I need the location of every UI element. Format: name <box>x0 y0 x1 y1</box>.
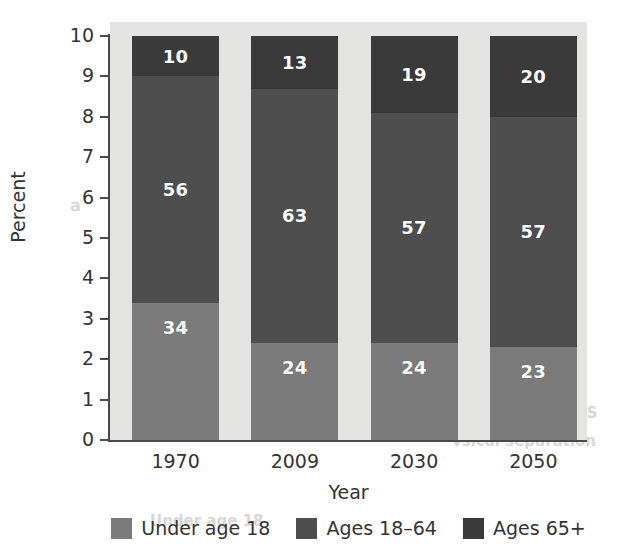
y-tick-label: 5 <box>46 228 94 247</box>
bar-value-label: 24 <box>401 357 427 378</box>
bar-segment: 13 <box>251 36 338 89</box>
y-tick-mark <box>100 116 109 118</box>
y-tick-mark <box>100 318 109 320</box>
x-axis-line <box>108 440 587 442</box>
y-tick-label: 6 <box>46 188 94 207</box>
bar-value-label: 56 <box>163 179 189 200</box>
y-tick-mark <box>100 75 109 77</box>
y-axis-title: Percent <box>7 157 29 257</box>
y-tick-label: 3 <box>46 309 94 328</box>
y-tick-mark <box>100 358 109 360</box>
bar-segment: 19 <box>371 36 458 113</box>
y-axis-ticks: 012345678910 <box>0 0 110 560</box>
y-tick-label: 0 <box>46 430 94 449</box>
bar-value-label: 10 <box>163 46 189 67</box>
bar-value-label: 19 <box>401 64 427 85</box>
bar-group: 345610 <box>132 22 219 440</box>
bar-segment: 10 <box>132 36 219 76</box>
bar-value-label: 34 <box>163 317 189 338</box>
chart-legend: Under age 18Ages 18–64Ages 65+ <box>110 517 587 539</box>
y-tick-mark <box>100 197 109 199</box>
figure-container: inModeransionveandALLIEDCONSIDERATIONSvs… <box>0 0 633 560</box>
bar-segment: 34 <box>132 303 219 440</box>
bar-segment: 23 <box>490 347 577 440</box>
y-tick-mark <box>100 439 109 441</box>
y-tick-label: 2 <box>46 349 94 368</box>
legend-swatch-icon <box>111 518 132 539</box>
bar-segment: 57 <box>371 113 458 343</box>
bar-value-label: 57 <box>521 221 547 242</box>
legend-swatch-icon <box>463 518 484 539</box>
legend-label: Ages 18–64 <box>326 517 437 539</box>
bar-value-label: 20 <box>521 66 547 87</box>
legend-item[interactable]: Under age 18 <box>111 517 270 539</box>
bar-segment: 20 <box>490 36 577 117</box>
bar-value-label: 13 <box>282 52 308 73</box>
y-tick-label: 4 <box>46 268 94 287</box>
x-tick-label: 1970 <box>132 450 219 472</box>
legend-label: Under age 18 <box>141 517 270 539</box>
legend-label: Ages 65+ <box>493 517 586 539</box>
y-tick-mark <box>100 277 109 279</box>
y-tick-label: 10 <box>46 26 94 45</box>
y-tick-label: 9 <box>46 66 94 85</box>
legend-item[interactable]: Ages 18–64 <box>296 517 437 539</box>
y-tick-mark <box>100 399 109 401</box>
x-tick-label: 2050 <box>490 450 577 472</box>
legend-swatch-icon <box>296 518 317 539</box>
legend-item[interactable]: Ages 65+ <box>463 517 586 539</box>
bar-group: 246313 <box>251 22 338 440</box>
y-tick-mark <box>100 35 109 37</box>
bar-segment: 24 <box>371 343 458 440</box>
y-tick-label: 7 <box>46 147 94 166</box>
bar-group: 245719 <box>371 22 458 440</box>
bar-segment: 24 <box>251 343 338 440</box>
bar-segment: 57 <box>490 117 577 347</box>
y-tick-label: 1 <box>46 390 94 409</box>
bar-value-label: 63 <box>282 205 308 226</box>
y-tick-mark <box>100 156 109 158</box>
bar-group: 235720 <box>490 22 577 440</box>
bar-segment: 56 <box>132 76 219 302</box>
y-tick-mark <box>100 237 109 239</box>
y-tick-label: 8 <box>46 107 94 126</box>
x-tick-label: 2030 <box>371 450 458 472</box>
bar-value-label: 57 <box>401 217 427 238</box>
plot-area: 345610246313245719235720 <box>110 22 587 440</box>
x-tick-label: 2009 <box>251 450 338 472</box>
bar-value-label: 24 <box>282 357 308 378</box>
bar-value-label: 23 <box>521 361 547 382</box>
bar-segment: 63 <box>251 89 338 344</box>
x-axis-title: Year <box>110 481 587 503</box>
